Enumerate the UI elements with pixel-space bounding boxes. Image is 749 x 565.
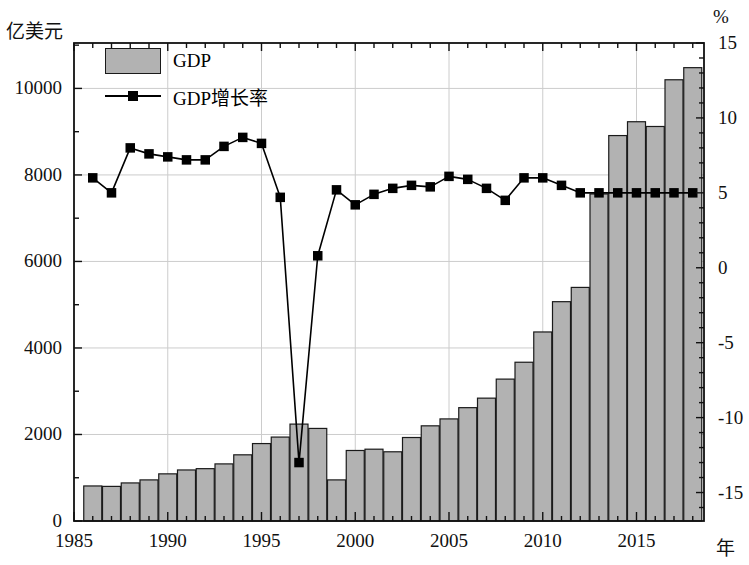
bar-2003	[403, 438, 421, 521]
y-left-tick-4000: 4000	[24, 337, 62, 359]
growth-rate-marker-1999	[332, 185, 342, 195]
y-right-tick--5: -5	[718, 332, 734, 354]
bar-2007	[478, 398, 496, 521]
x-tick-2010: 2010	[524, 530, 562, 552]
bar-2010	[534, 332, 552, 521]
bar-1993	[215, 464, 233, 521]
bar-2000	[346, 450, 364, 521]
bar-2002	[384, 452, 402, 521]
x-tick-1995: 1995	[243, 530, 281, 552]
bar-1988	[121, 483, 139, 521]
bar-1999	[328, 480, 346, 521]
y-right-tick-10: 10	[718, 107, 737, 129]
chart-figure: 亿美元 % 年 0200040006000800010000-15-10-505…	[0, 0, 749, 565]
growth-rate-marker-2008	[501, 196, 511, 206]
growth-rate-marker-1996	[276, 193, 286, 203]
x-tick-1985: 1985	[55, 530, 93, 552]
growth-rate-marker-1991	[182, 155, 192, 165]
x-tick-1990: 1990	[149, 530, 187, 552]
y-right-tick-0: 0	[718, 257, 728, 279]
growth-rate-marker-1993	[219, 142, 229, 152]
legend-swatch-gdp	[105, 48, 161, 74]
growth-rate-marker-2011	[557, 181, 567, 191]
bar-2012	[571, 287, 589, 521]
growth-rate-marker-2013	[594, 188, 604, 198]
growth-rate-marker-1989	[144, 149, 154, 159]
x-tick-2000: 2000	[336, 530, 374, 552]
bar-2011	[553, 302, 571, 521]
growth-rate-marker-2012	[576, 188, 586, 198]
growth-rate-marker-1988	[126, 143, 136, 153]
bar-2016	[646, 126, 664, 521]
growth-rate-marker-1987	[107, 188, 117, 198]
y-right-tick--10: -10	[718, 407, 743, 429]
growth-rate-marker-2006	[463, 175, 473, 185]
bar-2018	[684, 68, 702, 521]
y-right-tick-15: 15	[718, 32, 737, 54]
bar-2006	[459, 408, 477, 521]
y-left-tick-6000: 6000	[24, 250, 62, 272]
y-right-tick--15: -15	[718, 482, 743, 504]
bar-1989	[140, 480, 158, 521]
growth-rate-marker-2001	[369, 190, 379, 200]
bar-2005	[440, 419, 458, 521]
growth-rate-marker-2016	[651, 188, 661, 198]
growth-rate-marker-1998	[313, 251, 323, 261]
growth-rate-marker-2000	[351, 200, 361, 210]
x-tick-2015: 2015	[618, 530, 656, 552]
growth-rate-marker-2015	[632, 188, 642, 198]
growth-rate-marker-1994	[238, 133, 248, 143]
bar-1986	[84, 486, 102, 521]
bar-1998	[309, 428, 327, 521]
bar-2004	[421, 426, 439, 521]
growth-rate-marker-2002	[388, 184, 398, 194]
y-left-tick-2000: 2000	[24, 423, 62, 445]
bar-2013	[590, 194, 608, 521]
bar-2017	[665, 80, 683, 521]
bar-1991	[178, 470, 196, 521]
x-tick-2005: 2005	[430, 530, 468, 552]
growth-rate-marker-2017	[669, 188, 679, 198]
growth-rate-marker-2003	[407, 181, 417, 191]
growth-rate-marker-2004	[426, 182, 436, 192]
legend-swatch-growth-rate	[103, 86, 163, 106]
growth-rate-marker-1992	[201, 155, 211, 165]
bar-1995	[253, 444, 271, 521]
growth-rate-marker-2007	[482, 184, 492, 194]
bar-1987	[103, 486, 121, 521]
y-left-tick-8000: 8000	[24, 164, 62, 186]
bar-2015	[628, 122, 646, 521]
bar-1992	[196, 469, 214, 521]
plot-canvas	[0, 0, 749, 565]
bar-2008	[496, 379, 514, 521]
growth-rate-marker-1990	[163, 152, 173, 162]
growth-rate-marker-2005	[444, 172, 454, 182]
bar-1994	[234, 455, 252, 521]
bar-1997	[290, 424, 308, 521]
growth-rate-marker-1997	[294, 458, 304, 468]
bar-2001	[365, 449, 383, 521]
growth-rate-marker-2014	[613, 188, 623, 198]
growth-rate-marker-2009	[519, 173, 529, 183]
growth-rate-marker-1986	[88, 173, 98, 183]
y-right-tick-5: 5	[718, 182, 728, 204]
bar-2009	[515, 362, 533, 521]
growth-rate-marker-2010	[538, 173, 548, 183]
legend-label-growth-rate: GDP增长率	[173, 83, 268, 110]
legend-label-gdp: GDP	[173, 50, 211, 72]
y-left-tick-0: 0	[53, 510, 63, 532]
bar-1996	[271, 437, 289, 521]
growth-rate-marker-1995	[257, 139, 267, 149]
y-left-tick-10000: 10000	[15, 77, 63, 99]
